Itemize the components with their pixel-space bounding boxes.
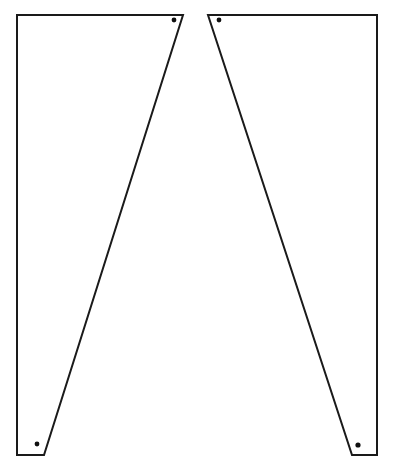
template-drawing (0, 0, 397, 475)
right-panel-top-hole-icon (217, 18, 222, 23)
left-panel-top-hole-icon (172, 18, 177, 23)
drawing-canvas (0, 0, 397, 475)
right-panel-bottom-hole-icon (355, 442, 360, 447)
left-panel-bottom-hole-icon (35, 442, 40, 447)
